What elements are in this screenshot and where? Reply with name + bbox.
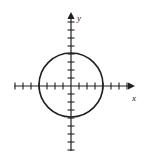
x-axis-label: x — [131, 93, 136, 103]
y-axis-arrowhead — [67, 12, 74, 19]
x-axis-arrowhead — [128, 82, 135, 89]
coordinate-plane-figure: x y — [0, 0, 147, 158]
y-axis-label: y — [76, 13, 81, 23]
graph-canvas: x y — [0, 0, 147, 158]
